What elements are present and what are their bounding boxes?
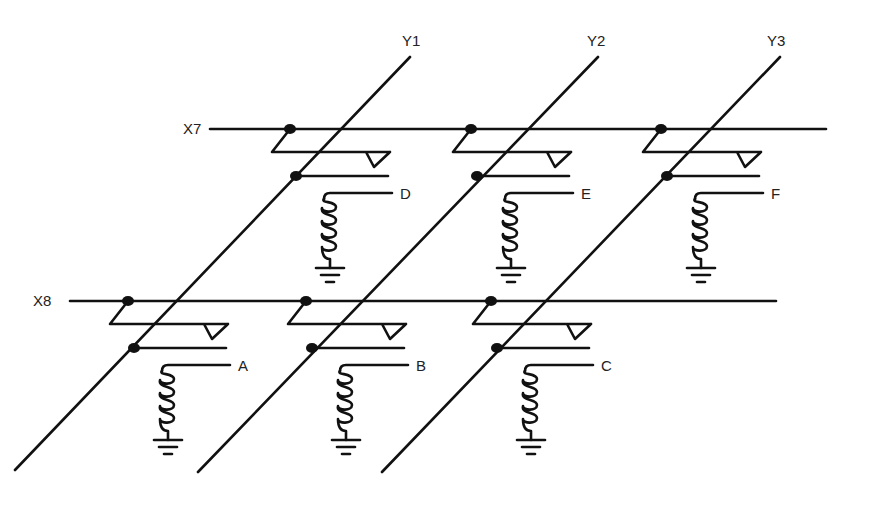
output-lead: [525, 365, 593, 371]
output-lead: [340, 365, 408, 371]
sense-loop: [288, 301, 406, 339]
cell-label: B: [416, 357, 426, 374]
memory-cell-a: A: [110, 296, 248, 454]
memory-matrix-diagram: DEFABC X7X8Y1Y2Y3: [0, 0, 877, 512]
column-label: Y1: [402, 32, 420, 49]
row-lines: [70, 129, 826, 301]
output-lead: [695, 193, 763, 199]
coil-icon: [160, 371, 174, 440]
sense-loop: [110, 301, 228, 339]
ground-icon: [154, 440, 182, 454]
cell-label: C: [601, 357, 612, 374]
sense-loop: [643, 129, 761, 167]
sense-loop: [473, 301, 591, 339]
cell-label: F: [771, 185, 780, 202]
cell-label: D: [400, 185, 411, 202]
column-label: Y2: [587, 32, 605, 49]
memory-cell-e: E: [453, 124, 591, 282]
ground-icon: [332, 440, 360, 454]
memory-cell-f: F: [643, 124, 780, 282]
cell-label: A: [238, 357, 248, 374]
column-lines: [15, 57, 780, 472]
coil-icon: [693, 199, 707, 268]
coil-icon: [322, 199, 336, 268]
column-label: Y3: [767, 32, 785, 49]
column-line-y2: [198, 57, 598, 472]
ground-icon: [497, 268, 525, 282]
ground-icon: [687, 268, 715, 282]
output-lead: [324, 193, 392, 199]
ground-icon: [517, 440, 545, 454]
ground-icon: [316, 268, 344, 282]
output-lead: [162, 365, 230, 371]
coil-icon: [503, 199, 517, 268]
column-line-y3: [382, 57, 780, 472]
coil-icon: [523, 371, 537, 440]
memory-cell-c: C: [473, 296, 612, 454]
sense-loop: [272, 129, 390, 167]
memory-cell-d: D: [272, 124, 411, 282]
row-label: X7: [183, 120, 201, 137]
coil-icon: [338, 371, 352, 440]
memory-cell-b: B: [288, 296, 426, 454]
cell-label: E: [581, 185, 591, 202]
row-label: X8: [33, 292, 51, 309]
output-lead: [505, 193, 573, 199]
